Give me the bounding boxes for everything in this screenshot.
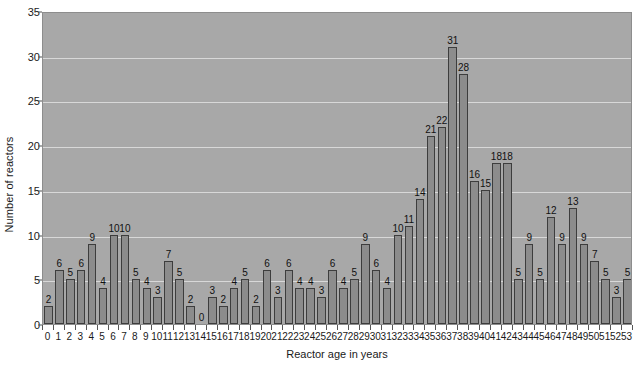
- bar[interactable]: [416, 199, 425, 324]
- bar[interactable]: [219, 306, 228, 324]
- bar[interactable]: [175, 279, 184, 324]
- bar-slot: 5: [130, 13, 141, 324]
- bar[interactable]: [285, 270, 294, 324]
- bar-slot: 2: [218, 13, 229, 324]
- bar[interactable]: [263, 270, 272, 324]
- bar[interactable]: [230, 288, 239, 324]
- bar-slot: 2: [185, 13, 196, 324]
- bar[interactable]: [339, 288, 348, 324]
- bar[interactable]: [623, 279, 632, 324]
- bar[interactable]: [569, 208, 578, 324]
- bar[interactable]: [427, 136, 436, 324]
- bar[interactable]: [186, 306, 195, 324]
- bar[interactable]: [470, 181, 479, 324]
- bar-slot: 21: [425, 13, 436, 324]
- x-tick-label: 41: [490, 331, 501, 343]
- bar[interactable]: [164, 261, 173, 324]
- bar[interactable]: [372, 270, 381, 324]
- x-tick-label: 9: [143, 331, 149, 343]
- bar-slot: 7: [589, 13, 600, 324]
- x-tick-label: 20: [260, 331, 271, 343]
- bar[interactable]: [514, 279, 523, 324]
- bar-value-label: 6: [373, 258, 379, 269]
- x-tick-label: 52: [610, 331, 621, 343]
- bar[interactable]: [590, 261, 599, 324]
- bar[interactable]: [88, 244, 97, 324]
- bar-value-label: 5: [68, 267, 74, 278]
- bar-value-label: 22: [436, 115, 447, 126]
- bar[interactable]: [143, 288, 152, 324]
- y-tick-label: 30: [16, 51, 40, 63]
- y-tick-mark: [38, 280, 42, 281]
- bar-value-label: 18: [491, 151, 502, 162]
- bar[interactable]: [459, 74, 468, 324]
- bar[interactable]: [361, 244, 370, 324]
- bar[interactable]: [241, 279, 250, 324]
- bar[interactable]: [580, 244, 589, 324]
- bar[interactable]: [77, 270, 86, 324]
- x-tick-label: 19: [249, 331, 260, 343]
- bar[interactable]: [44, 306, 53, 324]
- bar[interactable]: [405, 226, 414, 324]
- bar[interactable]: [132, 279, 141, 324]
- bar-value-label: 3: [210, 285, 216, 296]
- bar[interactable]: [295, 288, 304, 324]
- bar[interactable]: [121, 235, 130, 324]
- bar-slot: 16: [469, 13, 480, 324]
- bar-value-label: 4: [384, 276, 390, 287]
- x-tick-label: 11: [162, 331, 172, 343]
- bar[interactable]: [612, 297, 621, 324]
- x-tick-mark: [53, 325, 54, 330]
- bar[interactable]: [525, 244, 534, 324]
- y-tick-mark: [38, 101, 42, 102]
- bar[interactable]: [547, 217, 556, 324]
- x-tick-label: 12: [173, 331, 184, 343]
- bar[interactable]: [208, 297, 217, 324]
- bar[interactable]: [306, 288, 315, 324]
- x-tick-label: 53: [621, 331, 632, 343]
- bar[interactable]: [503, 163, 512, 324]
- y-tick-label: 35: [16, 6, 40, 18]
- bar[interactable]: [55, 270, 64, 324]
- x-tick-label: 35: [424, 331, 435, 343]
- x-tick-mark: [184, 325, 185, 330]
- y-tick-label: 25: [16, 95, 40, 107]
- bar-value-label: 4: [231, 276, 237, 287]
- bar[interactable]: [558, 244, 567, 324]
- bar[interactable]: [252, 306, 261, 324]
- bar-slot: 6: [371, 13, 382, 324]
- x-tick-mark: [348, 325, 349, 330]
- bar[interactable]: [438, 127, 447, 324]
- bar-slot: 5: [174, 13, 185, 324]
- bar-value-label: 10: [108, 223, 119, 234]
- x-tick-mark: [457, 325, 458, 330]
- bar[interactable]: [317, 297, 326, 324]
- bar[interactable]: [153, 297, 162, 324]
- bar[interactable]: [350, 279, 359, 324]
- bar[interactable]: [394, 235, 403, 324]
- bar-slot: 4: [305, 13, 316, 324]
- bar[interactable]: [328, 270, 337, 324]
- x-tick-mark: [162, 325, 163, 330]
- bar[interactable]: [110, 235, 119, 324]
- plot-area: 2656941010543752032452636443645964101114…: [42, 12, 632, 325]
- bar[interactable]: [99, 288, 108, 324]
- bar[interactable]: [66, 279, 75, 324]
- x-tick-label: 42: [501, 331, 512, 343]
- bar[interactable]: [492, 163, 501, 324]
- bar[interactable]: [274, 297, 283, 324]
- x-tick-label: 4: [88, 331, 94, 343]
- bar[interactable]: [601, 279, 610, 324]
- x-tick-label: 40: [479, 331, 490, 343]
- bar-value-label: 9: [363, 232, 369, 243]
- bar-slot: 4: [229, 13, 240, 324]
- bar[interactable]: [448, 47, 457, 324]
- bar[interactable]: [383, 288, 392, 324]
- bar[interactable]: [536, 279, 545, 324]
- bar-slot: 31: [447, 13, 458, 324]
- x-tick-mark: [446, 325, 447, 330]
- x-tick-mark: [118, 325, 119, 330]
- x-tick-label: 37: [446, 331, 457, 343]
- bar[interactable]: [481, 190, 490, 324]
- x-tick-label: 51: [599, 331, 610, 343]
